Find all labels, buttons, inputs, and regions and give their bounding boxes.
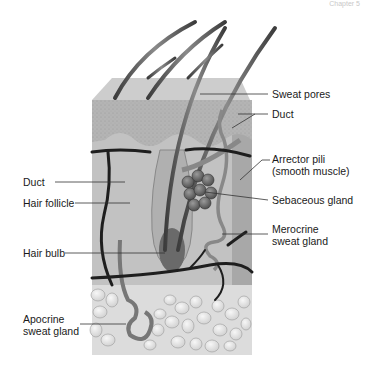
label-apocrine-line1: Apocrine — [23, 313, 79, 325]
label-apocrine-line2: sweat gland — [23, 325, 79, 337]
label-sweat-pores: Sweat pores — [272, 88, 330, 100]
label-merocrine-line2: sweat gland — [272, 235, 328, 247]
label-arrector-pili-line1: Arrector pili — [272, 153, 350, 165]
label-arrector-pili-line2: (smooth muscle) — [272, 165, 350, 177]
label-hair-follicle: Hair follicle — [23, 197, 74, 209]
label-sebaceous-gland: Sebaceous gland — [272, 194, 353, 206]
label-merocrine: Merocrine sweat gland — [272, 223, 328, 247]
label-arrector-pili: Arrector pili (smooth muscle) — [272, 153, 350, 177]
label-hair-bulb: Hair bulb — [23, 247, 65, 259]
skin-illustration — [0, 0, 368, 365]
subcutaneous-fat — [90, 285, 252, 355]
label-apocrine: Apocrine sweat gland — [23, 313, 79, 337]
label-duct-right: Duct — [272, 108, 294, 120]
label-merocrine-line1: Merocrine — [272, 223, 328, 235]
label-duct-left: Duct — [23, 176, 45, 188]
